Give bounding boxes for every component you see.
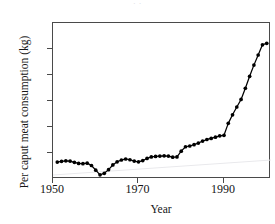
data-point-1957 xyxy=(81,162,85,166)
data-point-1994 xyxy=(239,98,243,102)
data-point-1979 xyxy=(175,155,179,159)
data-point-1985 xyxy=(201,139,205,143)
data-point-1999 xyxy=(261,43,265,47)
data-point-1973 xyxy=(149,155,153,159)
data-point-1991 xyxy=(226,122,230,126)
data-point-1997 xyxy=(252,63,256,67)
data-point-1955 xyxy=(73,161,77,165)
data-point-1959 xyxy=(90,164,94,168)
data-point-1964 xyxy=(111,163,115,167)
x-tick-label-1950: 1950 xyxy=(22,182,82,196)
data-point-1970 xyxy=(137,160,141,164)
data-point-1981 xyxy=(184,145,188,149)
series-line-per-caput-meat-consumption xyxy=(57,43,266,175)
data-point-1978 xyxy=(171,155,175,159)
cut-off-title-remnant: · · xyxy=(0,0,275,6)
data-point-1953 xyxy=(64,159,68,163)
x-tick-label-1990: 1990 xyxy=(193,182,253,196)
data-point-1967 xyxy=(124,157,128,161)
data-point-1988 xyxy=(214,135,218,139)
data-point-1968 xyxy=(128,158,132,162)
data-point-1952 xyxy=(60,159,64,163)
data-point-1962 xyxy=(102,171,106,175)
x-tick-label-1970: 1970 xyxy=(107,182,167,196)
data-point-1977 xyxy=(167,154,171,158)
data-point-1984 xyxy=(196,141,200,145)
data-point-1992 xyxy=(231,113,235,117)
data-point-1965 xyxy=(115,160,119,164)
data-point-1986 xyxy=(205,138,209,142)
data-point-1989 xyxy=(218,134,222,138)
data-point-2000 xyxy=(265,41,269,45)
data-point-1987 xyxy=(209,137,213,141)
data-point-1996 xyxy=(248,74,252,78)
data-point-1963 xyxy=(107,168,111,172)
chart-figure: · · Per caput meat consumption (kg) Year… xyxy=(0,0,275,224)
data-series-svg xyxy=(53,23,271,179)
data-point-1998 xyxy=(256,53,260,57)
x-axis-title: Year xyxy=(52,203,270,215)
data-point-1993 xyxy=(235,105,239,109)
plot-area xyxy=(52,22,270,178)
data-point-1980 xyxy=(179,149,183,153)
data-point-1995 xyxy=(244,86,248,90)
data-point-1961 xyxy=(98,173,102,177)
data-point-1974 xyxy=(154,155,158,159)
data-point-1958 xyxy=(85,161,89,165)
data-point-1969 xyxy=(132,159,136,163)
data-point-1960 xyxy=(94,168,98,172)
data-point-1951 xyxy=(55,160,59,164)
data-point-1956 xyxy=(77,162,81,166)
data-point-1983 xyxy=(192,143,196,147)
data-point-1976 xyxy=(162,154,166,158)
data-point-1982 xyxy=(188,144,192,148)
data-point-1971 xyxy=(141,159,145,163)
data-point-1990 xyxy=(222,133,226,137)
data-point-1966 xyxy=(120,158,124,162)
data-point-1975 xyxy=(158,154,162,158)
data-point-1954 xyxy=(68,159,72,163)
data-point-1972 xyxy=(145,157,149,161)
